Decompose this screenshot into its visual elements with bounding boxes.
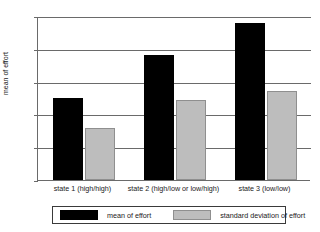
bar-mean-group-2 (144, 55, 174, 180)
bar-sd-group-3 (267, 91, 297, 180)
bar-mean-group-3 (235, 23, 265, 180)
legend-label-mean: mean of effort (107, 211, 151, 220)
legend-item-mean: mean of effort (60, 207, 151, 223)
x-axis-tick-label: state 1 (high/high) (54, 184, 112, 193)
y-axis-tick (34, 181, 38, 182)
plot-area: 01020304050 (37, 17, 310, 181)
legend-swatch-mean-icon (60, 210, 98, 220)
y-axis-tick (34, 83, 38, 84)
y-axis-title: mean of effort (2, 52, 9, 95)
y-axis-tick (34, 17, 38, 18)
x-axis-tick-label: state 3 (low/low) (239, 184, 291, 193)
gridline (38, 17, 311, 18)
chart-legend: mean of effort standard deviation of eff… (52, 206, 286, 224)
chart-figure: mean of effort 01020304050 state 1 (high… (0, 0, 320, 232)
y-axis-tick (34, 115, 38, 116)
legend-swatch-sd-icon (173, 210, 211, 220)
legend-label-sd: standard deviation of effort (220, 211, 305, 220)
x-axis-tick-labels: state 1 (high/high)state 2 (high/low or … (37, 184, 310, 196)
y-axis-tick (34, 50, 38, 51)
legend-item-sd: standard deviation of effort (173, 207, 305, 223)
gridline (38, 50, 311, 51)
bar-sd-group-1 (85, 128, 115, 180)
gridline (38, 83, 311, 84)
bar-sd-group-2 (176, 100, 206, 180)
bar-mean-group-1 (53, 98, 83, 180)
y-axis-tick (34, 148, 38, 149)
x-axis-tick-label: state 2 (high/low or low/high) (128, 184, 220, 193)
